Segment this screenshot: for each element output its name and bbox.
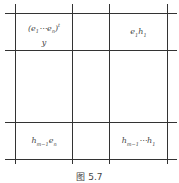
cell-bottom-right: hm−1⋯h1 <box>110 135 167 150</box>
grid-line-h3 <box>5 122 177 123</box>
cell-bottom-left: hm−1en <box>16 135 72 150</box>
cell-top-left-line2: y <box>16 37 72 48</box>
cell-top-right: e1h1 <box>110 26 167 41</box>
cell-top-left-line1: (e1⋯en)t <box>16 20 72 37</box>
grid-line-v2 <box>72 4 73 164</box>
grid-line-h2 <box>5 50 177 51</box>
cell-top-left: (e1⋯en)t y <box>16 20 72 48</box>
grid-line-h4 <box>5 159 177 160</box>
grid-line-h1 <box>5 13 177 14</box>
figure-caption: 图 5.7 <box>0 170 179 183</box>
grid-line-v4 <box>167 4 168 164</box>
